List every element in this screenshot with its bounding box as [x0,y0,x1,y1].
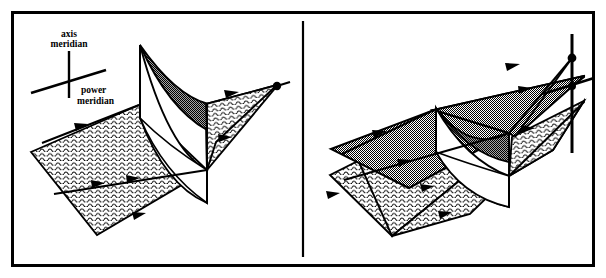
axis-node-lower [568,82,576,90]
axis-meridian-label-line2: meridian [51,39,89,49]
power-meridian-label-line1: power [81,85,107,95]
figure-root: axis meridian power meridian [0,0,606,278]
panel-left: axis meridian power meridian [31,29,290,235]
meridian-legend: axis meridian power meridian [31,29,115,106]
axis-meridian-label-line1: axis [61,29,77,39]
arrow-wavy-lower-left [326,191,340,199]
arrow-bottom-edge [132,212,146,220]
diagram-canvas: axis meridian power meridian [0,0,606,278]
arrow-gray-wing-top [505,63,520,71]
power-meridian-label-line2: meridian [77,96,115,106]
panel-right [326,34,594,236]
